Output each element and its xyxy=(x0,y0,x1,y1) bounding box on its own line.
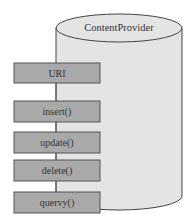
box-update: update() xyxy=(14,132,100,153)
cylinder-label: ContentProvider xyxy=(84,22,154,33)
content-provider-diagram: ContentProvider URI insert() update() de… xyxy=(0,0,187,224)
box-uri-label: URI xyxy=(48,68,65,79)
box-delete-label: delete() xyxy=(42,165,73,177)
box-delete: delete() xyxy=(14,160,100,181)
box-update-label: update() xyxy=(40,137,73,149)
box-uri: URI xyxy=(14,63,100,83)
box-insert: insert() xyxy=(14,101,100,122)
box-insert-label: insert() xyxy=(43,106,72,118)
box-query-label: quervy() xyxy=(40,197,74,209)
box-query: quervy() xyxy=(14,192,100,213)
